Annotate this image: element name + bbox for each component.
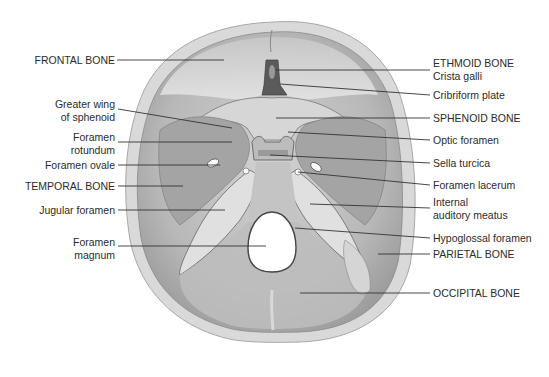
label-jugular-foramen: Jugular foramen <box>39 204 115 217</box>
label-optic-foramen: Optic foramen <box>433 134 499 147</box>
label-occipital-bone: OCCIPITAL BONE <box>433 287 520 300</box>
label-parietal-bone: PARIETAL BONE <box>433 248 515 261</box>
label-foramen-ovale: Foramen ovale <box>45 159 115 172</box>
skull-diagram: FRONTAL BONE Greater wing of sphenoid Fo… <box>0 0 549 377</box>
label-text: Crista galli <box>433 70 514 83</box>
label-text: magnum <box>73 249 115 262</box>
label-frontal-bone: FRONTAL BONE <box>34 54 115 67</box>
label-text: Sella turcica <box>433 157 490 170</box>
label-text: rotundum <box>71 144 115 157</box>
foramen-magnum <box>248 212 296 272</box>
label-text: TEMPORAL BONE <box>25 180 115 193</box>
label-text: Foramen ovale <box>45 159 115 172</box>
clivus <box>248 162 298 220</box>
label-sphenoid-bone: SPHENOID BONE <box>433 112 521 125</box>
label-text: Foramen lacerum <box>433 179 515 192</box>
label-text: Internal <box>433 196 508 209</box>
label-greater-wing: Greater wing of sphenoid <box>55 98 115 123</box>
label-temporal-bone: TEMPORAL BONE <box>25 180 115 193</box>
label-internal-auditory-meatus: Internal auditory meatus <box>433 196 508 221</box>
label-foramen-lacerum: Foramen lacerum <box>433 179 515 192</box>
label-text: Greater wing <box>55 98 115 111</box>
label-foramen-rotundum: Foramen rotundum <box>71 131 115 156</box>
label-hypoglossal-foramen: Hypoglossal foramen <box>433 232 532 245</box>
label-text: Cribriform plate <box>433 89 505 102</box>
label-text: PARIETAL BONE <box>433 248 515 261</box>
label-text: ETHMOID BONE <box>433 57 514 70</box>
label-text: Jugular foramen <box>39 204 115 217</box>
label-text: auditory meatus <box>433 209 508 222</box>
label-text: Optic foramen <box>433 134 499 147</box>
label-text: Foramen <box>73 236 115 249</box>
label-text: OCCIPITAL BONE <box>433 287 520 300</box>
label-foramen-magnum: Foramen magnum <box>73 236 115 261</box>
label-text: of sphenoid <box>55 111 115 124</box>
label-text: FRONTAL BONE <box>34 54 115 67</box>
label-text: Foramen <box>71 131 115 144</box>
foramen-lacerum-left <box>243 168 249 174</box>
label-text: Hypoglossal foramen <box>433 232 532 245</box>
label-sella-turcica: Sella turcica <box>433 157 490 170</box>
label-ethmoid-bone: ETHMOID BONE Crista galli <box>433 57 514 82</box>
label-cribriform-plate: Cribriform plate <box>433 89 505 102</box>
label-text: SPHENOID BONE <box>433 112 521 125</box>
